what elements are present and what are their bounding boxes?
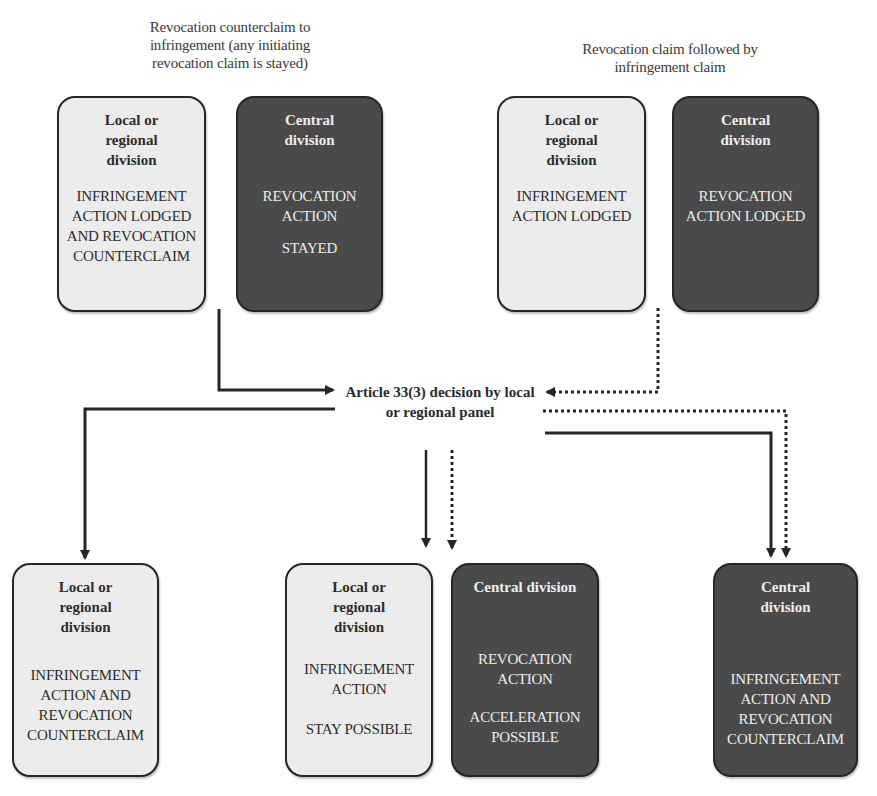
solid-arrow-decision-to-bottom-right <box>545 433 771 556</box>
flow-arrows <box>0 0 877 796</box>
solid-arrow-counterclaim-to-decision <box>219 309 333 390</box>
dotted-arrow-revocation-to-decision <box>547 308 658 392</box>
solid-arrow-decision-to-bottom-left <box>85 409 335 558</box>
